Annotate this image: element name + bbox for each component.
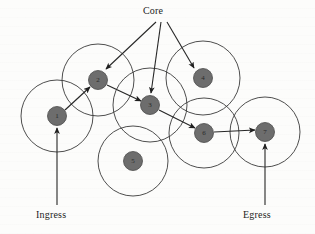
link-6-7 (214, 130, 255, 132)
network-nodes (48, 69, 275, 171)
node-4-label: 4 (201, 74, 205, 82)
forwarding-path-links (65, 85, 255, 132)
core-to-node-4 (167, 22, 194, 68)
diagram-canvas: 1234567 (0, 0, 315, 234)
egress-label: Egress (243, 209, 271, 220)
core-to-node-3 (151, 22, 161, 93)
node-2-label: 2 (96, 76, 100, 84)
network-diagram-figure: 1234567 Core Ingress Egress (0, 0, 315, 234)
node-6-label: 6 (202, 129, 206, 137)
core-pointer-arrows (106, 22, 194, 93)
core-label: Core (143, 5, 163, 16)
node-1-label: 1 (55, 112, 59, 120)
ingress-label: Ingress (36, 209, 66, 220)
node-5-label: 5 (131, 157, 135, 165)
node-7-label: 7 (263, 128, 267, 136)
core-to-node-2 (106, 22, 156, 69)
node-3-label: 3 (148, 101, 152, 109)
link-2-3 (107, 85, 141, 101)
link-1-2 (65, 87, 90, 110)
